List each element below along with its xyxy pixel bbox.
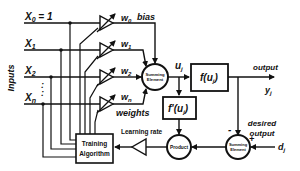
input-x2: X2 [24,65,36,77]
w1-label: w1 [121,39,132,50]
svg-text:X1: X1 [24,38,36,50]
svg-text:X2: X2 [24,65,36,77]
weight-amplifiers [97,14,115,113]
svg-text:f'(uj): f'(uj) [168,103,189,115]
svg-text:Element: Element [230,147,246,152]
svg-text:Product: Product [170,145,189,150]
input-x0: X0 = 1 [24,11,53,23]
inputs-label: Inputs [6,65,16,92]
learning-rate-amplifier [132,139,146,155]
svg-text:X0 = 1: X0 = 1 [24,11,53,23]
svg-text:Algorithm: Algorithm [79,150,110,158]
neuron-diagram: Inputs X0 = 1 X1 X2 Xn : : [0,0,300,171]
bias-label: bias [137,12,155,22]
desired-label: desired [248,119,278,128]
weights-label: weights [116,108,150,118]
weighted-lines [113,23,155,104]
wn-label: wn [121,92,132,103]
desired-output-label: output [250,129,275,138]
svg-text:f(uj): f(uj) [200,72,218,84]
y-label: yj [264,85,272,96]
derivative-function-box: f'(uj) [163,97,196,119]
input-taps [43,23,76,157]
summing-element: Summing Element [142,64,168,90]
svg-text:Element: Element [147,77,164,82]
training-algorithm-box: Training Algorithm [76,134,113,163]
ellipsis-dots-2: : [41,88,44,98]
amplifier-w1 [97,41,115,59]
input-x1: X1 [24,38,36,50]
error-summing-element: Summing Element [226,135,250,159]
svg-text:Training: Training [82,140,107,148]
output-label: output [253,63,278,72]
product-node: Product [167,135,191,159]
learning-rate-label: Learning rate [121,128,163,136]
input-lines [24,23,100,104]
weight-control-lines [80,28,98,134]
activation-function-box: f(uj) [191,64,228,91]
amplifier-wn [97,95,115,113]
w2-label: w2 [121,66,132,77]
junction-dots [41,21,72,106]
d-label: dj [278,142,286,153]
amplifier-w2 [97,68,115,86]
amplifier-w0 [97,14,115,32]
minus-sign: - [228,124,232,135]
u-label: uj [175,60,183,72]
input-xn: Xn [24,92,36,104]
svg-text:Xn: Xn [24,92,36,104]
